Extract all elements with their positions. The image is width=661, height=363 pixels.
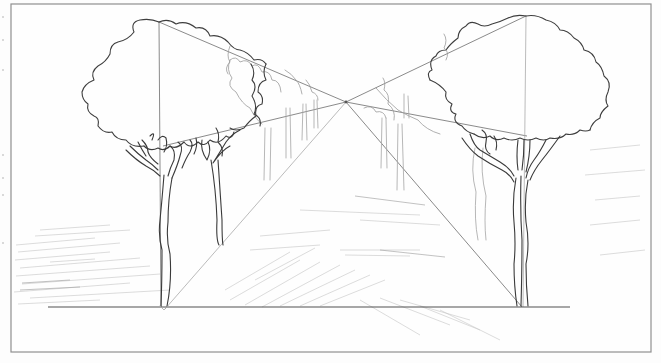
drawing-frame [11,4,651,352]
perspective-drawing [0,0,661,363]
margin-marks [2,16,3,243]
vanishing-point [345,101,348,104]
sketch-canvas: Pencil sketch of a one-point perspective… [0,0,661,363]
